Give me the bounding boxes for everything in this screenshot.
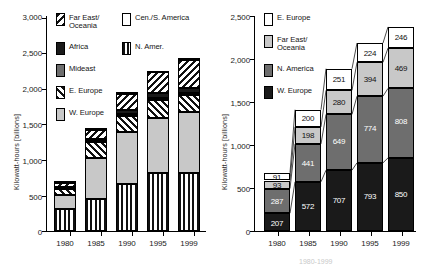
left-legend-item-mideast: Mideast (56, 64, 95, 77)
left-seg-cen-s-america (85, 128, 107, 130)
right-y-axis-label: Kilowatt-hours [billions] (220, 114, 229, 190)
left-seg-far-east (178, 60, 200, 88)
right-value-far-east-1985: 198 (296, 131, 320, 140)
left-seg-africa (54, 187, 76, 189)
left-y-tick-1000: 1,000 (8, 157, 42, 166)
right-y-tick-1500: 1,500 (216, 99, 250, 108)
left-legend-item-cen-s-america: Cen./S. America (122, 13, 189, 26)
left-ytick-mark (42, 89, 46, 90)
right-value-w-europe-1980: 207 (265, 219, 289, 228)
right-legend-item-far-east: Far East/ Oceania (264, 35, 307, 53)
left-ytick-mark (42, 231, 46, 232)
left-x-tick-1985: 1985 (83, 239, 109, 248)
right-legend-label-w-europe: W. Europe (277, 86, 312, 95)
right-ytick-mark (250, 188, 254, 189)
right-value-far-east-1990: 280 (327, 98, 351, 107)
left-seg-n-amer (178, 173, 200, 231)
left-ytick-mark (42, 160, 46, 161)
w-europe-swatch-icon (264, 86, 273, 99)
right-legend-item-n-america: N. America (264, 64, 314, 77)
left-legend-item-africa: Africa (56, 42, 88, 55)
right-seg-n-america: 808 (388, 88, 414, 158)
left-bar-1990 (116, 0, 138, 269)
left-legend-item-n-amer: N. Amer. (122, 42, 164, 55)
right-bar-1995: 793 774 394 224 (357, 0, 383, 269)
right-value-n-america-1990: 649 (327, 137, 351, 146)
far-east-swatch-icon (264, 35, 273, 48)
left-seg-africa (178, 88, 200, 93)
right-seg-e-europe: 91 (264, 173, 290, 181)
left-legend-label-africa: Africa (69, 42, 88, 51)
right-seg-far-east: 469 (388, 48, 414, 88)
right-x-tick-1995: 1995 (357, 239, 383, 248)
left-seg-africa (147, 93, 169, 98)
left-x-tick-1980: 1980 (52, 239, 78, 248)
right-ytick-mark (250, 59, 254, 60)
right-value-w-europe-1999: 850 (389, 190, 413, 199)
right-value-far-east-1980: 93 (265, 181, 289, 190)
right-seg-w-europe: 850 (388, 158, 414, 231)
right-y-tick-1000: 1,000 (216, 142, 250, 151)
right-ytick-mark (250, 16, 254, 17)
left-seg-n-amer (147, 173, 169, 231)
left-ytick-mark (42, 124, 46, 125)
left-y-tick-2000: 2,000 (8, 85, 42, 94)
left-seg-e-europe (116, 116, 138, 133)
right-bar-1990: 707 649 280 251 (326, 0, 352, 269)
left-seg-w-europe (85, 158, 107, 199)
left-seg-e-europe (178, 95, 200, 112)
right-legend-label-n-america: N. America (277, 64, 314, 73)
right-seg-w-europe: 207 (264, 213, 290, 231)
right-ytick-mark (250, 231, 254, 232)
left-seg-cen-s-america (54, 181, 76, 183)
right-seg-n-america: 441 (295, 144, 321, 182)
right-ytick-mark (250, 102, 254, 103)
left-bar-1985 (85, 0, 107, 269)
right-seg-w-europe: 793 (357, 163, 383, 231)
far-east-swatch-icon (56, 13, 65, 26)
n-america-swatch-icon (264, 64, 273, 77)
w-europe-swatch-icon (56, 108, 65, 121)
left-seg-n-amer (54, 209, 76, 231)
left-x-tick-1990: 1990 (114, 239, 140, 248)
left-x-tick-1995: 1995 (145, 239, 171, 248)
right-y-axis-line (254, 16, 255, 232)
right-value-w-europe-1985: 572 (296, 202, 320, 211)
right-legend-item-e-europe: E. Europe (264, 13, 310, 26)
right-seg-far-east: 198 (295, 127, 321, 144)
right-seg-e-europe: 251 (326, 69, 352, 91)
right-seg-n-america: 287 (264, 189, 290, 214)
right-value-far-east-1999: 469 (389, 64, 413, 73)
right-y-tick-2500: 2,500 (216, 13, 250, 22)
left-legend-item-w-europe: W. Europe (56, 108, 104, 121)
right-seg-far-east: 280 (326, 90, 352, 114)
right-value-e-europe-1999: 246 (389, 33, 413, 42)
left-seg-cen-s-america (116, 92, 138, 94)
figure-root: Kilowatt-hours [billions] 0 500 1,000 1,… (0, 0, 421, 269)
right-legend-item-w-europe: W. Europe (264, 86, 312, 99)
right-seg-e-europe: 224 (357, 43, 383, 62)
left-seg-n-amer (85, 199, 107, 231)
left-seg-cen-s-america (178, 58, 200, 60)
right-ytick-mark (250, 145, 254, 146)
right-y-tick-2000: 2,000 (216, 56, 250, 65)
e-europe-swatch-icon (264, 13, 273, 26)
left-y-tick-1500: 1,500 (8, 121, 42, 130)
right-legend-label-far-east: Far East/ Oceania (277, 35, 307, 53)
left-seg-mideast (147, 98, 169, 100)
left-bar-1999 (178, 0, 200, 269)
left-seg-e-europe (147, 100, 169, 118)
cen-s-america-swatch-icon (122, 13, 131, 26)
left-y-tick-2500: 2,500 (8, 49, 42, 58)
left-seg-far-east (54, 183, 76, 187)
right-legend-label-e-europe: E. Europe (277, 13, 310, 22)
left-seg-africa (85, 139, 107, 141)
left-ytick-mark (42, 18, 46, 19)
left-ytick-mark (42, 196, 46, 197)
right-x-tick-1999: 1999 (388, 239, 414, 248)
right-seg-n-america: 649 (326, 114, 352, 170)
left-y-tick-3000: 3,000 (8, 13, 42, 22)
mideast-swatch-icon (56, 64, 65, 77)
right-x-tick-1985: 1985 (295, 239, 321, 248)
left-legend-item-e-europe: E. Europe (56, 86, 102, 99)
